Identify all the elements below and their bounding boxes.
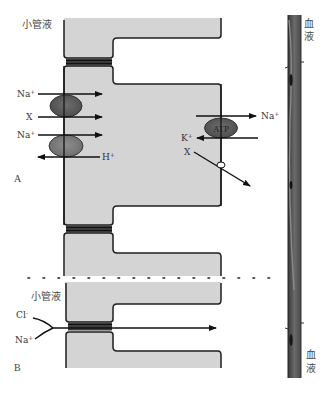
- x-channel: [217, 162, 225, 168]
- renal-tubule-transport-diagram: 小管液 血 液 A 小管液 血 液 B Na+ X Na+ H+ ATP Na+…: [0, 0, 333, 393]
- cl-converging-line: [33, 318, 53, 328]
- panel-label-b: B: [14, 362, 21, 373]
- blood-label-top-char-2: 液: [304, 30, 314, 42]
- blood-vessel-wall: [285, 15, 304, 378]
- na-converging-line: [35, 328, 53, 339]
- cl-label: Cl-: [16, 309, 28, 320]
- lower-epithelial-cell: [62, 233, 224, 322]
- na-label-1: Na+: [17, 88, 35, 99]
- x-label-basolateral: X: [184, 147, 191, 157]
- main-epithelial-cell: [64, 66, 221, 225]
- panel-label-a: A: [14, 173, 22, 184]
- na-label-paracellular: Na+: [15, 334, 33, 345]
- blood-label-top-char-1: 血: [304, 17, 314, 29]
- exchanger-na-h: [49, 135, 83, 157]
- blood-label-bottom-char-2: 液: [306, 362, 316, 374]
- bottom-epithelial-cell: [66, 332, 221, 368]
- tight-junction-3: [68, 323, 112, 331]
- top-epithelial-cell: [64, 18, 221, 58]
- na-label-2: Na+: [17, 129, 35, 140]
- blood-label-bottom-char-1: 血: [306, 348, 316, 360]
- na-label-basolateral: Na+: [261, 110, 279, 121]
- lumen-label-top: 小管液: [22, 18, 52, 30]
- tight-junction-2: [66, 226, 112, 233]
- x-label-apical: X: [26, 112, 33, 122]
- tight-junction-1: [66, 59, 112, 66]
- lumen-label-b: 小管液: [31, 290, 61, 302]
- cotransporter-na-x: [50, 95, 82, 117]
